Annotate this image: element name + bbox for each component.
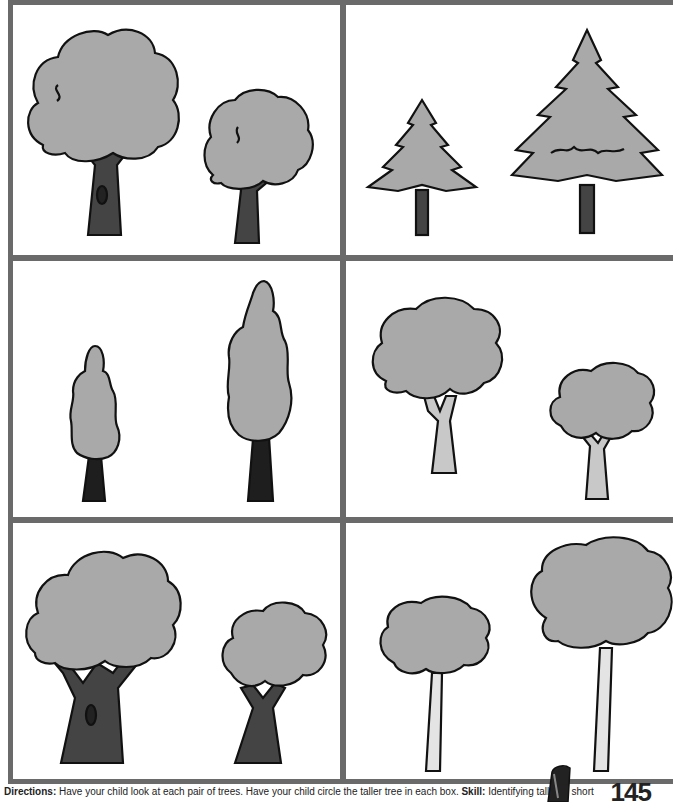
page-number: 145 [611, 779, 651, 805]
short-oak [223, 603, 327, 763]
tall-oak [26, 552, 180, 763]
directions-text: Directions: Have your child look at each… [4, 787, 594, 797]
directions-body: Have your child look at each pair of tre… [59, 786, 459, 797]
panel-1-oak-trees[interactable] [13, 5, 340, 255]
panel-2-pine-trees[interactable] [346, 5, 673, 255]
broadleaf-trees-illustration [346, 261, 673, 517]
tall-cypress [228, 281, 292, 501]
panel-5-gnarled-oak-trees[interactable] [13, 523, 340, 779]
directions-label: Directions: [4, 786, 56, 797]
gnarled-oak-trees-illustration [13, 523, 340, 779]
tall-birch [531, 537, 671, 771]
tall-tree [28, 30, 179, 235]
cypress-trees-illustration [13, 261, 340, 517]
panel-3-cypress-trees[interactable] [13, 261, 340, 517]
pine-trees-illustration [346, 5, 673, 255]
short-pine [368, 100, 476, 235]
short-tree [205, 90, 313, 243]
tall-pine [512, 30, 662, 233]
tall-broadleaf [373, 298, 502, 473]
worksheet-grid [8, 0, 673, 784]
short-cypress [70, 346, 119, 501]
short-birch [380, 597, 489, 771]
birch-trees-illustration [346, 523, 673, 779]
panel-6-birch-trees[interactable] [346, 523, 673, 779]
panel-4-broadleaf-trees[interactable] [346, 261, 673, 517]
oak-trees-illustration [13, 5, 340, 255]
short-broadleaf [550, 363, 654, 499]
skill-label: Skill: [461, 786, 485, 797]
mascot-hat-icon [540, 762, 580, 802]
